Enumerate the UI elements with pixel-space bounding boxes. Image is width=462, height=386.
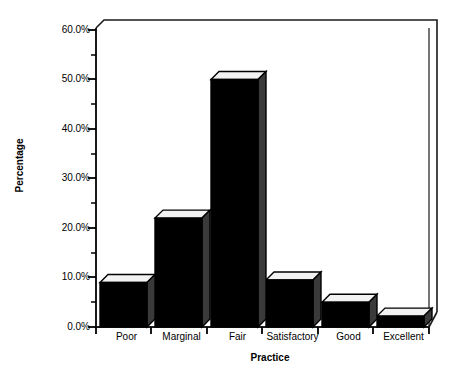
bar-top-face	[377, 308, 432, 316]
bar-top-face	[322, 294, 377, 302]
bar-top-face	[100, 275, 155, 283]
bar-poor[interactable]	[100, 275, 155, 328]
y-axis-major-ticks	[88, 30, 96, 327]
bar-side-face	[313, 272, 321, 327]
bar-side-face	[258, 72, 266, 328]
bar-front-face	[266, 280, 313, 327]
bar-side-face	[202, 210, 210, 327]
bar-top-face	[211, 72, 266, 80]
bar-satisfactory[interactable]	[266, 272, 321, 327]
bar-front-face	[377, 316, 424, 327]
bar-marginal[interactable]	[155, 210, 210, 327]
bar-side-face	[147, 275, 155, 328]
x-axis-tick-labels: Poor Marginal Fair Satisfactory Good Exc…	[95, 331, 445, 347]
bar-front-face	[211, 80, 258, 328]
bar-front-face	[155, 218, 202, 327]
plot-area	[0, 0, 462, 386]
x-tick-label-excellent: Excellent	[366, 331, 441, 343]
bar-chart: Percentage 60.0% 50.0% 40.0% 30.0% 20.0%…	[0, 0, 462, 386]
bar-front-face	[322, 302, 369, 327]
bar-good[interactable]	[322, 294, 377, 327]
bar-front-face	[100, 283, 147, 328]
bar-excellent[interactable]	[377, 308, 432, 327]
bar-top-face	[155, 210, 210, 218]
bar-fair[interactable]	[211, 72, 266, 328]
bar-top-face	[266, 272, 321, 280]
x-axis-title: Practice	[95, 352, 445, 363]
